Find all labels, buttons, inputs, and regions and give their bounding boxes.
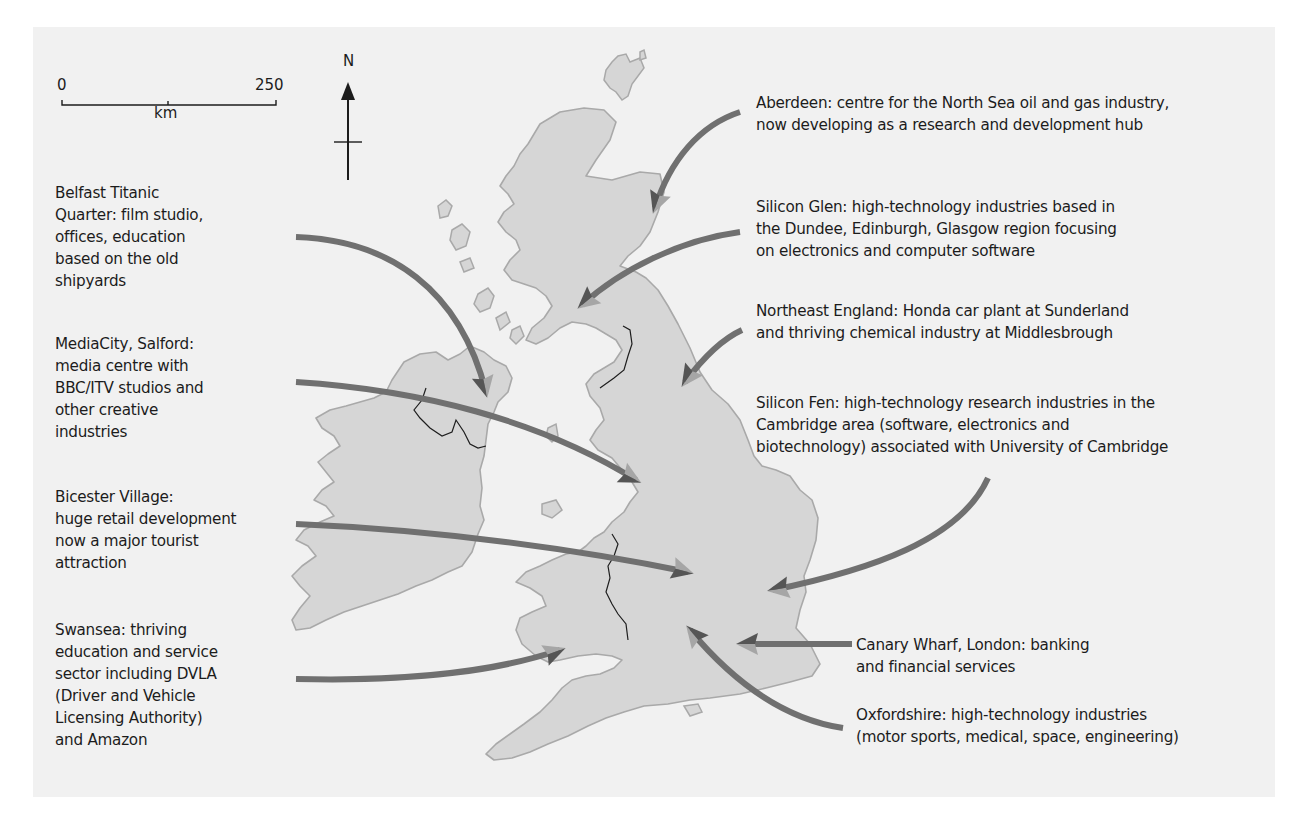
annotation-swansea: Swansea: thriving education and service … [55, 619, 218, 751]
annotation-canary-wharf: Canary Wharf, London: banking and financ… [856, 634, 1089, 678]
scale-start-label: 0 [57, 76, 67, 94]
scale-end-label: 250 [255, 76, 284, 94]
north-label: N [343, 52, 354, 70]
ireland-landmass [292, 346, 512, 630]
annotation-silicon-glen: Silicon Glen: high-technology industries… [756, 196, 1117, 262]
annotation-belfast: Belfast Titanic Quarter: film studio, of… [55, 182, 203, 292]
shetland-islands [604, 50, 646, 100]
annotation-aberdeen: Aberdeen: centre for the North Sea oil a… [756, 92, 1169, 136]
annotation-bicester: Bicester Village: huge retail developmen… [55, 486, 236, 574]
arrow-aberdeen-icon [643, 112, 740, 217]
scale-unit-label: km [154, 104, 177, 122]
annotation-oxfordshire: Oxfordshire: high-technology industries … [856, 704, 1179, 748]
isle-of-wight [684, 704, 702, 716]
north-arrow-icon [334, 82, 362, 180]
anglesey [542, 500, 562, 518]
annotation-silicon-fen: Silicon Fen: high-technology research in… [756, 392, 1168, 458]
annotation-mediacity: MediaCity, Salford: media centre with BB… [55, 333, 203, 443]
annotation-northeast-england: Northeast England: Honda car plant at Su… [756, 300, 1129, 344]
